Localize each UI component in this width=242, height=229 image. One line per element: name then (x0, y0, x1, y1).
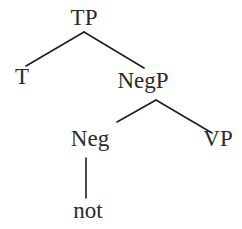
edge-negp-neg (117, 100, 156, 122)
syntax-tree-diagram: TP T NegP Neg VP not (0, 0, 242, 229)
edge-tp-negp (84, 32, 144, 68)
node-vp: VP (203, 126, 232, 151)
tree-nodes: TP T NegP Neg VP not (15, 5, 233, 223)
edge-tp-t (26, 32, 84, 66)
tree-edges (26, 32, 212, 198)
node-negp: NegP (117, 68, 168, 93)
node-not: not (73, 198, 103, 223)
node-neg: Neg (71, 126, 110, 151)
node-t: T (15, 64, 29, 89)
node-tp: TP (71, 5, 98, 30)
